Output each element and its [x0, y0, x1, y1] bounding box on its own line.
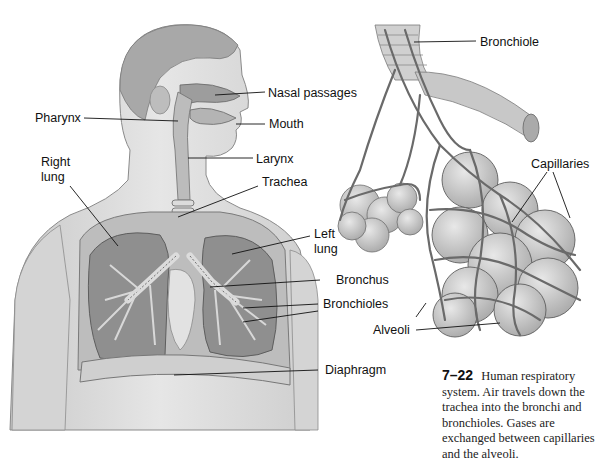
label-pharynx: Pharynx — [35, 111, 81, 125]
label-diaphragm: Diaphragm — [325, 363, 386, 377]
label-bronchioles: Bronchioles — [323, 297, 388, 311]
label-left-lung-line1: Left — [314, 227, 335, 241]
figure-number: 7–22 — [442, 367, 473, 383]
label-capillaries: Capillaries — [531, 157, 589, 171]
label-trachea: Trachea — [262, 175, 307, 189]
label-bronchiole: Bronchiole — [480, 35, 539, 49]
label-larynx: Larynx — [256, 152, 294, 166]
label-mouth: Mouth — [269, 117, 304, 131]
label-left-lung-line2-text: lung — [314, 242, 338, 256]
label-right-lung-line2: lung — [41, 170, 65, 184]
label-bronchus: Bronchus — [336, 273, 389, 287]
label-nasal-passages: Nasal passages — [268, 86, 357, 100]
figure-caption: 7–22Human respiratory system. Air travel… — [442, 368, 607, 462]
alveoli-drawing — [338, 25, 580, 337]
label-right-lung-line1: Right — [41, 155, 70, 169]
label-alveoli: Alveoli — [373, 323, 410, 337]
